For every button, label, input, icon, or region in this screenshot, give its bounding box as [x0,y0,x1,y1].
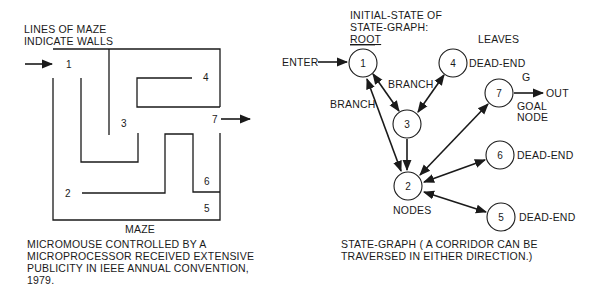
maze-description-line-4: 1979. [27,274,54,286]
svg-text:5: 5 [498,212,504,223]
maze-description-line-2: MICROPROCESSOR RECEIVED EXTENSIVE [27,250,254,262]
maze-cell-label: 5 [204,203,210,214]
svg-text:1: 1 [360,58,366,69]
graph-caption-line-2: TRAVERSED IN EITHER DIRECTION.) [341,250,533,262]
root-label-line-3: ROOT [350,33,382,45]
dead-end-label-4: DEAD-END [469,57,526,69]
enter-label: ENTER [282,56,319,68]
graph-node-3: 3 [393,110,421,138]
maze-cell-label: 1 [66,59,72,70]
maze-cell-label: 4 [203,72,209,83]
graph-node-6: 6 [486,141,514,169]
maze-cell-label: 2 [65,188,71,199]
graph-node-2: 2 [394,172,422,200]
edge-2-5 [424,192,486,212]
goal-label-line-2: NODE [517,111,548,123]
maze: LINES OF MAZE INDICATE WALLS 1 2 3 4 5 [24,23,254,286]
root-label-line-1: INITIAL-STATE OF [350,9,442,21]
edge-2-6 [424,160,485,182]
svg-text:2: 2 [405,181,411,192]
maze-title-line-1: LINES OF MAZE [24,23,107,35]
maze-cell-label: 7 [212,114,218,125]
svg-text:4: 4 [450,58,456,69]
graph-node-7: 7 [485,79,513,107]
maze-description-line-1: MICROMOUSE CONTROLLED BY A [27,238,206,250]
edge-2-7 [420,104,488,175]
maze-cell-label: 3 [121,118,127,129]
dead-end-label-5: DEAD-END [519,211,576,223]
root-label-line-2: STATE-GRAPH: [350,21,428,33]
svg-text:6: 6 [497,150,503,161]
maze-caption: MAZE [125,223,155,235]
dead-end-label-6: DEAD-END [517,149,574,161]
maze-description-line-3: PUBLICITY IN IEEE ANNUAL CONVENTION, [27,262,249,274]
svg-text:3: 3 [404,119,410,130]
graph-node-5: 5 [487,203,515,231]
nodes-label: NODES [393,204,431,216]
maze-cell-labels: 1 2 3 4 5 6 7 [65,59,218,214]
maze-cell-label: 6 [204,176,210,187]
branch-label-upper: BRANCH [388,78,434,90]
graph-node-1: 1 [349,49,377,77]
out-label: OUT [546,87,569,99]
goal-letter: G [522,71,530,83]
leaves-label: LEAVES [478,33,519,45]
graph-edges [367,74,488,212]
branch-label-left: BRANCH [330,98,376,110]
maze-title-line-2: INDICATE WALLS [24,35,113,47]
maze-walls [53,49,220,220]
state-graph: INITIAL-STATE OF STATE-GRAPH: ROOT LEAVE… [282,9,576,262]
graph-node-4: 4 [439,49,467,77]
maze-and-state-graph-diagram: LINES OF MAZE INDICATE WALLS 1 2 3 4 5 [0,0,591,295]
graph-caption-line-1: STATE-GRAPH ( A CORRIDOR CAN BE [341,238,538,250]
svg-text:7: 7 [496,88,502,99]
